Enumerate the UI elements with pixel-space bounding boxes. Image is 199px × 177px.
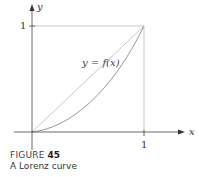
lorenz-curve-figure: x y 1 1 y = f(x) [0, 0, 199, 150]
figure-title: A Lorenz curve [10, 161, 77, 172]
figure-number: 45 [47, 150, 60, 160]
y-axis-label: y [36, 1, 43, 12]
equality-line [32, 26, 144, 132]
figure-caption: FIGURE 45 A Lorenz curve [10, 150, 77, 172]
x-axis-label: x [189, 126, 195, 137]
x-tick-label: 1 [141, 139, 147, 150]
curve-label: y = f(x) [81, 57, 120, 68]
y-tick-label: 1 [20, 20, 26, 31]
y-axis-arrow-icon [30, 4, 35, 11]
x-axis-arrow-icon [178, 130, 185, 135]
figure-number-line: FIGURE 45 [10, 150, 77, 161]
figure-label: FIGURE [10, 150, 45, 160]
